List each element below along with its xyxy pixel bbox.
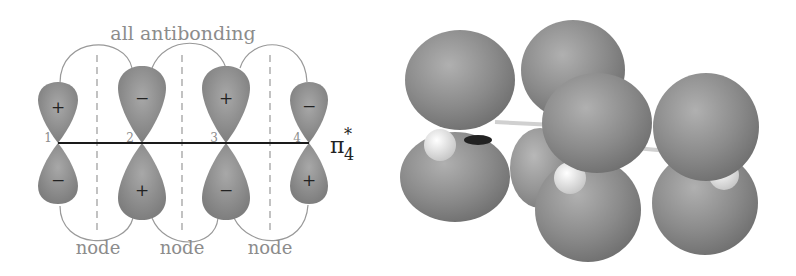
pi-star-4-3d-model xyxy=(380,0,796,276)
atom-number-3: 3 xyxy=(210,131,218,145)
diagram-title: all antibonding xyxy=(110,22,255,44)
hueckel-orbital-diagram: all antibonding + − − + xyxy=(0,0,370,276)
orbital-lobe xyxy=(542,73,652,173)
phase-sign-top: − xyxy=(302,96,316,116)
atom-number-2: 2 xyxy=(126,131,134,145)
phase-sign-top: − xyxy=(135,88,149,108)
atom-number-4: 4 xyxy=(293,131,301,145)
phase-sign-bottom: − xyxy=(219,180,233,200)
phase-sign-top: + xyxy=(219,88,233,108)
orbital-label: π xyxy=(330,133,344,158)
phase-sign-top: + xyxy=(51,97,65,117)
phase-sign-bottom: − xyxy=(51,170,65,190)
orbital-label-subscript: 4 xyxy=(344,145,354,164)
node-label-2: node xyxy=(160,237,205,258)
orbital-lobe xyxy=(653,73,759,181)
node-label-1: node xyxy=(76,237,121,258)
pi-star-4-schematic: all antibonding + − − + xyxy=(0,0,370,276)
3d-orbital-render xyxy=(380,0,796,276)
orbital-lobe xyxy=(405,30,515,130)
orbital-lobe xyxy=(535,158,641,262)
top-arc-3-4 xyxy=(240,45,307,82)
atom-number-1: 1 xyxy=(44,131,52,145)
orbital-label-superscript: * xyxy=(344,125,352,144)
phase-sign-bottom: + xyxy=(135,180,149,200)
top-arc-2-3 xyxy=(152,43,226,68)
node-label-3: node xyxy=(248,237,293,258)
phase-sign-bottom: + xyxy=(302,170,316,190)
hydrogen-atom xyxy=(424,129,456,161)
carbon-atom xyxy=(464,135,492,145)
